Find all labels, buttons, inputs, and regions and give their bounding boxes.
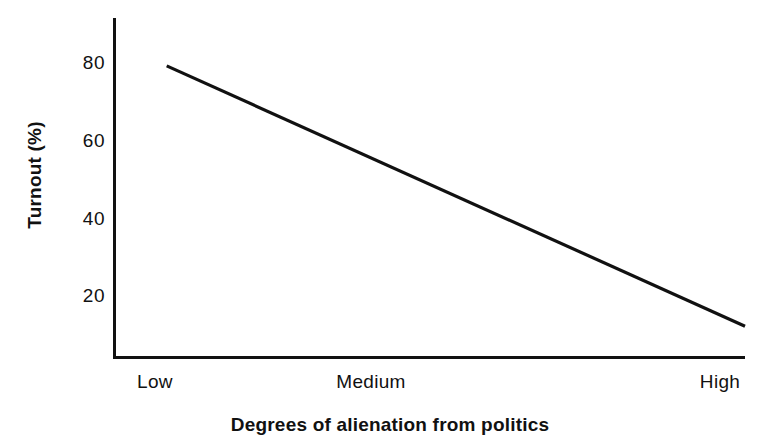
y-axis-title: Turnout (%) [24,121,46,228]
y-tick-label-40: 40 [45,209,105,228]
x-tick-label-high: High [700,371,740,393]
chart-figure: 80 60 40 20 Low Medium High Turnout (%) … [0,0,781,448]
x-axis-title: Degrees of alienation from politics [231,414,549,436]
x-tick-label-low: Low [137,371,173,393]
x-axis-line [113,356,745,359]
y-axis-line [113,18,116,359]
x-tick-label-medium: Medium [336,371,405,393]
y-tick-label-60: 60 [45,131,105,150]
y-tick-label-80: 80 [45,53,105,72]
y-tick-label-20: 20 [45,286,105,305]
series-line-turnout [167,66,745,326]
